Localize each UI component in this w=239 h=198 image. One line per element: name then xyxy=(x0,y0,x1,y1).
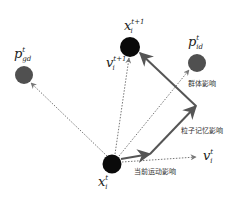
label-p-id: ptid xyxy=(188,34,203,51)
annotation-group-influence: 群体影响 xyxy=(188,79,216,88)
arrow-inertia xyxy=(121,154,150,159)
dotted-arrows xyxy=(31,58,196,162)
label-p-gd: ptgd xyxy=(14,46,32,63)
arrow-to-p-id xyxy=(119,70,189,156)
label-x-current: xti xyxy=(98,174,108,191)
arrow-to-p-gd xyxy=(31,83,107,156)
solid-arrows xyxy=(121,53,196,159)
label-v-next: vt+1i xyxy=(106,55,127,72)
pso-diagram: ptgd ptid xt+1i vt+1i vti xti 群体影响 粒子记忆影… xyxy=(0,0,239,198)
node-x-current xyxy=(103,155,122,174)
node-p-id xyxy=(188,54,206,72)
label-v-current: vti xyxy=(203,148,213,165)
label-x-next: xt+1i xyxy=(124,18,144,35)
annotation-motion-influence: 当前运动影响 xyxy=(134,167,176,176)
node-x-next xyxy=(120,37,140,57)
arrow-v-next xyxy=(115,58,129,154)
annotation-memory-influence: 粒子记忆影响 xyxy=(181,126,223,135)
node-p-gd xyxy=(15,66,33,84)
